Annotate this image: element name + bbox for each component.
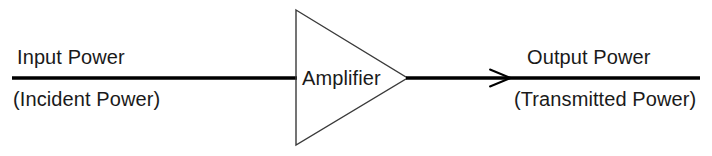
- amplifier-block-label: Amplifier: [302, 68, 381, 88]
- transmitted-power-label: (Transmitted Power): [514, 89, 696, 109]
- output-power-label: Output Power: [527, 47, 651, 67]
- incident-power-label: (Incident Power): [13, 89, 160, 109]
- input-power-label: Input Power: [17, 47, 125, 67]
- amplifier-block-diagram: Input Power (Incident Power) Amplifier O…: [0, 0, 712, 156]
